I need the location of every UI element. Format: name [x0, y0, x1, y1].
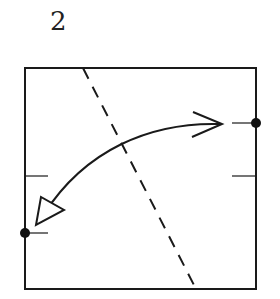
fold-diagram	[0, 0, 280, 299]
fold-arrow-curve	[44, 124, 220, 214]
paper-square	[25, 68, 256, 289]
left-point-dot	[20, 228, 30, 238]
valley-fold-line	[83, 68, 196, 289]
right-point-dot	[251, 118, 261, 128]
arrowhead-left-icon	[36, 197, 64, 225]
